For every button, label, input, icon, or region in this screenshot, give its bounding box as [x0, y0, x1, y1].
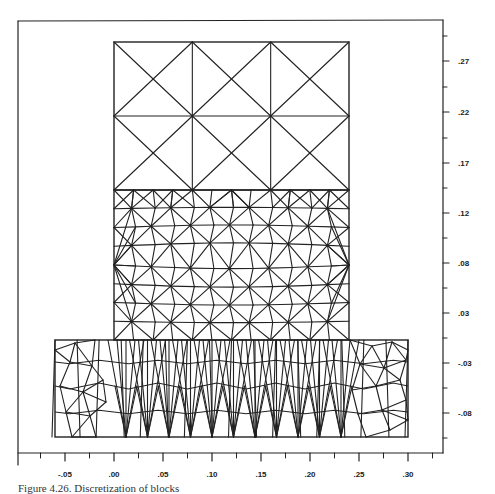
upper-block-mesh [114, 42, 349, 190]
mesh-edge [249, 323, 251, 340]
mesh-edge [271, 322, 289, 340]
fan-edge [212, 340, 221, 437]
mesh-edge [55, 350, 70, 362]
y-tick-label: .03 [458, 309, 470, 318]
mesh-row-edge [55, 383, 408, 389]
mesh-edge [70, 343, 75, 362]
mesh-edge [171, 322, 173, 340]
fan-edge [332, 340, 341, 437]
mesh-edge [327, 208, 349, 265]
mesh-edge [155, 285, 171, 286]
mesh-edge [327, 322, 329, 340]
mesh-edge [192, 190, 210, 207]
mesh-edge [366, 430, 390, 437]
y-tick-label: -.03 [458, 359, 472, 368]
x-tick-label: .10 [206, 470, 218, 479]
mesh-edge [151, 267, 171, 286]
mesh-edge [92, 340, 95, 366]
mesh-edge [292, 226, 308, 227]
mesh-edge [310, 190, 328, 208]
mesh-edge [114, 322, 132, 340]
y-axis: .27.22.17.12.08.03-.03-.08 [443, 36, 472, 438]
mesh-edge [153, 190, 155, 208]
mesh-edge [60, 362, 70, 386]
fan-edge [191, 386, 202, 437]
mesh-edge [308, 266, 332, 267]
mesh-edge [331, 265, 349, 266]
mesh-edge [83, 366, 92, 392]
mesh-edge [83, 392, 106, 402]
mesh-edge [310, 322, 328, 340]
mesh-edge [132, 322, 154, 340]
mesh-edge [132, 322, 134, 340]
frame-top [18, 20, 443, 21]
mesh-edge [327, 265, 349, 322]
mesh-edge [90, 416, 96, 437]
mesh-edge [249, 323, 271, 340]
mesh-edge [288, 285, 312, 286]
fan-edge [330, 386, 341, 437]
mesh-edge [114, 245, 132, 246]
mesh-edge [132, 285, 156, 286]
mesh-edge [271, 322, 273, 340]
fan-edge [244, 386, 255, 437]
x-tick-label: .00 [108, 470, 120, 479]
mesh-edge [175, 268, 191, 269]
base-block-mesh [52, 340, 408, 437]
mesh-edge [155, 244, 171, 245]
mesh-edge [171, 286, 195, 287]
mesh-edge [72, 416, 90, 437]
mesh-edge [171, 243, 195, 244]
mesh-edge [384, 342, 392, 368]
mesh-edge [171, 190, 193, 208]
mesh-edge [232, 190, 250, 207]
mesh-edge [232, 190, 234, 207]
mesh-edge [310, 190, 312, 208]
mesh-edge [292, 304, 308, 305]
mesh-edge [327, 190, 329, 208]
mesh-edge [66, 412, 72, 437]
mesh-edge [151, 267, 175, 268]
mesh-edge [192, 190, 194, 208]
fan-edge [277, 340, 286, 437]
mesh-edge [114, 303, 136, 304]
mesh-edge [153, 322, 155, 340]
mesh-edge [171, 190, 173, 208]
mesh-edge [312, 285, 328, 286]
x-tick-label: .25 [353, 470, 365, 479]
mesh-edge [400, 380, 406, 400]
fan-edge [169, 340, 178, 437]
fan-edge [289, 340, 298, 437]
mesh-edge [288, 267, 308, 286]
mesh-edge [114, 227, 136, 228]
figure-caption: Figure 4.26. Discretization of blocks [18, 482, 179, 494]
mesh-edge [308, 303, 332, 304]
mesh-edge [192, 322, 194, 340]
mesh-edge [151, 304, 175, 305]
y-tick-label: .17 [458, 159, 470, 168]
y-tick-label: .27 [458, 57, 470, 66]
mesh-edge [273, 243, 289, 244]
mesh-edge [372, 346, 384, 368]
x-tick-label: .15 [255, 470, 267, 479]
mesh-edge [308, 226, 332, 227]
mesh-edge [55, 343, 75, 350]
x-tick-label: -.05 [58, 470, 72, 479]
mesh-edge [360, 346, 372, 364]
mesh-edge [384, 368, 400, 380]
mesh-edge [271, 190, 273, 208]
mesh-edge [114, 284, 132, 285]
mesh-edge [352, 390, 358, 414]
mesh-edge [376, 368, 384, 386]
mesh-edge [308, 226, 328, 245]
column-edge [96, 340, 99, 437]
mesh-edge [210, 323, 232, 340]
mesh-edge [90, 402, 106, 416]
mesh-edge [192, 323, 210, 340]
mesh-edge [232, 323, 250, 340]
fan-edge [320, 340, 329, 437]
mesh-edge [372, 342, 392, 346]
mesh-edge [171, 322, 193, 340]
mesh-edge [114, 265, 136, 266]
mesh-edge [103, 380, 106, 402]
